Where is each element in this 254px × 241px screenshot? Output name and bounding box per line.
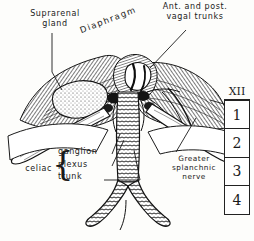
vertebra-cell-1: 1	[225, 101, 249, 129]
left-common-iliac-artery	[86, 180, 128, 226]
vertebra-cell-2: 2	[225, 129, 249, 157]
label-celiac-plexus: plexus	[58, 159, 114, 172]
right-common-iliac-artery	[128, 180, 170, 226]
celiac-subitems: ganglion plexus trunk	[58, 146, 114, 184]
vertebra-key-header: XII	[224, 85, 250, 100]
label-greater-splanchnic-nerve: Greater splanchnic nerve	[160, 154, 228, 181]
label-celiac: celiac	[14, 164, 52, 174]
label-vagal-trunks: Ant. and post. vagal trunks	[143, 2, 247, 22]
anatomy-engraving	[0, 0, 254, 241]
label-celiac-ganglion: ganglion	[58, 146, 114, 159]
leader-vagal	[150, 30, 186, 68]
median-sacral-artery	[120, 200, 126, 230]
vertebra-key-box: 1 2 3 4	[224, 100, 250, 215]
vertebra-cell-4: 4	[225, 186, 249, 214]
anatomical-plate: Suprarenal gland Diaphragm Ant. and post…	[0, 0, 254, 241]
vertebra-cell-3: 3	[225, 158, 249, 186]
label-celiac-trunk: trunk	[58, 171, 114, 184]
